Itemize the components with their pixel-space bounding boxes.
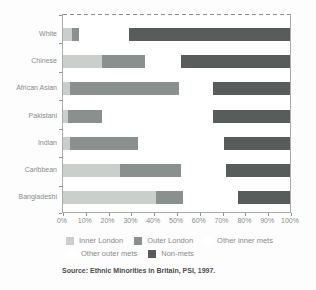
x-tick-mark (131, 213, 132, 216)
bar-row (63, 110, 290, 123)
bar-segment-other-inner-mets (102, 110, 159, 123)
bar-row (63, 191, 290, 204)
bar-row (63, 55, 290, 68)
legend-swatch (66, 237, 74, 245)
bar-segment-inner-london (63, 164, 120, 177)
bar-segment-non-mets (226, 164, 290, 177)
x-tick-mark (86, 213, 87, 216)
bar-segment-inner-london (63, 82, 70, 95)
legend-swatch (134, 237, 142, 245)
bar-segment-other-inner-mets (79, 28, 104, 41)
source-text: Source: Ethnic Minorities in Britain, PS… (62, 267, 215, 274)
x-axis-label: 100% (275, 217, 305, 224)
bar-segment-non-mets (213, 110, 290, 123)
x-tick-mark (63, 213, 64, 216)
bar-segment-outer-london (68, 110, 102, 123)
legend-item: Non-mets (148, 249, 194, 258)
legend-swatch (204, 237, 212, 245)
legend: Inner LondonOuter LondonOther inner mets… (66, 236, 311, 262)
bar-segment-outer-london (70, 137, 138, 150)
bar-row (63, 28, 290, 41)
legend-item: Outer London (134, 236, 193, 245)
y-tick-mark (59, 157, 62, 158)
bar-segment-other-inner-mets (179, 82, 195, 95)
y-axis-label: Bangladeshi (0, 190, 57, 203)
bar-segment-non-mets (181, 55, 290, 68)
legend-swatch (148, 250, 156, 258)
legend-label: Inner London (79, 236, 123, 245)
bar-segment-other-outer-mets (181, 137, 224, 150)
bar-segment-inner-london (63, 55, 102, 68)
y-axis-label: Pakistani (0, 109, 57, 122)
bar-segment-other-outer-mets (158, 110, 212, 123)
bar-segment-other-inner-mets (183, 191, 210, 204)
y-axis-label: Chinese (0, 54, 57, 67)
x-tick-mark (200, 213, 201, 216)
legend-item: Other outer mets (68, 249, 137, 258)
bar-segment-other-inner-mets (145, 55, 163, 68)
stacked-bar-chart: Inner LondonOuter LondonOther inner mets… (0, 0, 316, 290)
x-tick-mark (109, 213, 110, 216)
x-tick-mark (177, 213, 178, 216)
x-tick-mark (154, 213, 155, 216)
bar-segment-inner-london (63, 191, 156, 204)
bar-segment-non-mets (238, 191, 290, 204)
legend-item: Other inner mets (204, 236, 273, 245)
legend-label: Other inner mets (217, 236, 273, 245)
bar-row (63, 137, 290, 150)
bar-segment-outer-london (70, 82, 179, 95)
y-tick-mark (59, 100, 62, 101)
bar-segment-other-outer-mets (211, 191, 238, 204)
plot-area (62, 14, 291, 213)
y-axis-label: African Asian (0, 81, 57, 94)
bar-segment-other-outer-mets (163, 55, 181, 68)
y-tick-mark (59, 213, 62, 214)
y-tick-mark (59, 72, 62, 73)
bar-segment-non-mets (213, 82, 290, 95)
bar-segment-other-outer-mets (204, 164, 227, 177)
bar-segment-other-outer-mets (104, 28, 129, 41)
bar-segment-outer-london (156, 191, 183, 204)
y-axis-label: Caribbean (0, 163, 57, 176)
legend-label: Other outer mets (81, 249, 137, 258)
legend-item: Inner London (66, 236, 123, 245)
legend-label: Outer London (147, 236, 193, 245)
y-tick-mark (59, 43, 62, 44)
x-tick-mark (245, 213, 246, 216)
bar-segment-inner-london (63, 137, 70, 150)
x-tick-mark (291, 213, 292, 216)
bar-segment-other-outer-mets (195, 82, 213, 95)
bar-segment-other-inner-mets (138, 137, 181, 150)
bar-row (63, 82, 290, 95)
y-tick-mark (59, 129, 62, 130)
legend-swatch (68, 250, 76, 258)
y-axis-label: White (0, 27, 57, 40)
bar-segment-non-mets (129, 28, 290, 41)
bar-segment-non-mets (224, 137, 290, 150)
x-tick-mark (268, 213, 269, 216)
x-tick-mark (223, 213, 224, 216)
bar-row (63, 164, 290, 177)
bar-segment-outer-london (120, 164, 181, 177)
bar-segment-outer-london (72, 28, 79, 41)
legend-label: Non-mets (161, 249, 194, 258)
legend-row: Other outer metsNon-mets (68, 249, 311, 258)
bar-segment-outer-london (102, 55, 145, 68)
legend-row: Inner LondonOuter LondonOther inner mets (66, 236, 311, 245)
bar-segment-inner-london (63, 28, 72, 41)
bar-segment-other-inner-mets (181, 164, 204, 177)
y-axis-label: Indian (0, 136, 57, 149)
plot-top-border (63, 14, 290, 15)
y-tick-mark (59, 15, 62, 16)
y-tick-mark (59, 186, 62, 187)
